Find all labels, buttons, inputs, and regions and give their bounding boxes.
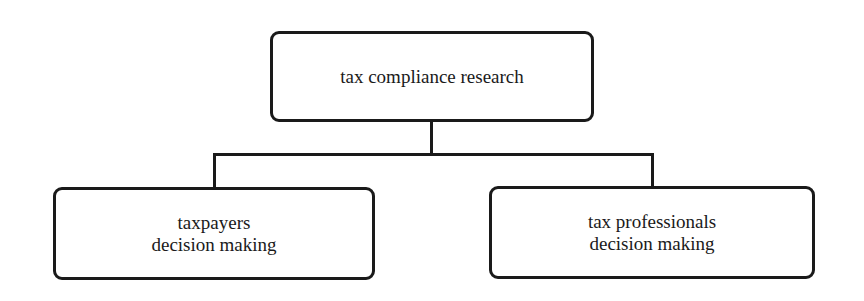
right-child-connector	[651, 153, 654, 187]
horizontal-connector	[213, 153, 654, 156]
taxpayers-decision-making-node: taxpayers decision making	[53, 187, 375, 280]
node-label-line1: taxpayers	[178, 212, 251, 234]
node-label-line2: decision making	[589, 233, 714, 255]
left-child-connector	[213, 153, 216, 188]
root-vertical-connector	[430, 121, 433, 156]
root-node: tax compliance research	[270, 31, 594, 122]
node-label-line2: decision making	[151, 234, 276, 256]
tax-professionals-decision-making-node: tax professionals decision making	[489, 186, 815, 279]
root-node-label: tax compliance research	[340, 66, 524, 88]
node-label-line1: tax professionals	[588, 211, 716, 233]
